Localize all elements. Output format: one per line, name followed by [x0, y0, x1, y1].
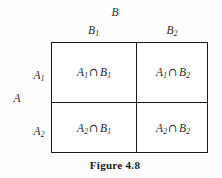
grid-cell-a1-b1-label: A1∩B1 — [77, 67, 111, 79]
grid-cell-a2-b1: A2∩B1 — [52, 103, 136, 154]
column-group-label: B — [4, 7, 222, 19]
partition-grid: A1∩B1 A1∩B2 A2∩B1 A2∩B2 — [51, 42, 208, 153]
row-header-a2-base: A — [33, 125, 40, 137]
column-header-b2-subscript: 2 — [174, 29, 178, 38]
row-header-a1: A1 — [30, 70, 48, 82]
column-header-b2-base: B — [166, 24, 173, 36]
row-header-a1-subscript: 1 — [41, 74, 45, 83]
cell-right-subscript: 1 — [107, 71, 111, 80]
grid-cell-a2-b1-label: A2∩B1 — [77, 123, 111, 135]
grid-cell-a1-b1: A1∩B1 — [52, 43, 136, 102]
figure-4-8-container: B A B1 B2 A1 A2 A1∩B1 A1∩B2 A2∩B1 A2∩B2 … — [0, 0, 222, 178]
cell-left-subscript: 1 — [84, 71, 88, 80]
intersection-icon: ∩ — [167, 65, 179, 79]
column-header-b1: B1 — [51, 25, 136, 37]
column-header-b1-subscript: 1 — [95, 29, 99, 38]
cell-left-subscript: 1 — [163, 71, 167, 80]
cell-right-subscript: 2 — [186, 71, 190, 80]
column-header-b2: B2 — [136, 25, 208, 37]
cell-left-subscript: 2 — [163, 127, 167, 136]
intersection-icon: ∩ — [167, 121, 179, 135]
grid-cell-a2-b2-label: A2∩B2 — [156, 123, 190, 135]
row-header-a2-subscript: 2 — [41, 130, 45, 139]
cell-left-subscript: 2 — [84, 127, 88, 136]
figure-caption: Figure 4.8 — [4, 159, 222, 171]
intersection-icon: ∩ — [88, 65, 100, 79]
cell-right-subscript: 1 — [107, 127, 111, 136]
intersection-icon: ∩ — [88, 121, 100, 135]
cell-right-subscript: 2 — [186, 127, 190, 136]
row-header-a2: A2 — [30, 126, 48, 138]
grid-cell-a2-b2: A2∩B2 — [137, 103, 209, 154]
grid-cell-a1-b2: A1∩B2 — [137, 43, 209, 102]
grid-cell-a1-b2-label: A1∩B2 — [156, 67, 190, 79]
row-header-a1-base: A — [33, 69, 40, 81]
row-group-label: A — [8, 93, 26, 105]
